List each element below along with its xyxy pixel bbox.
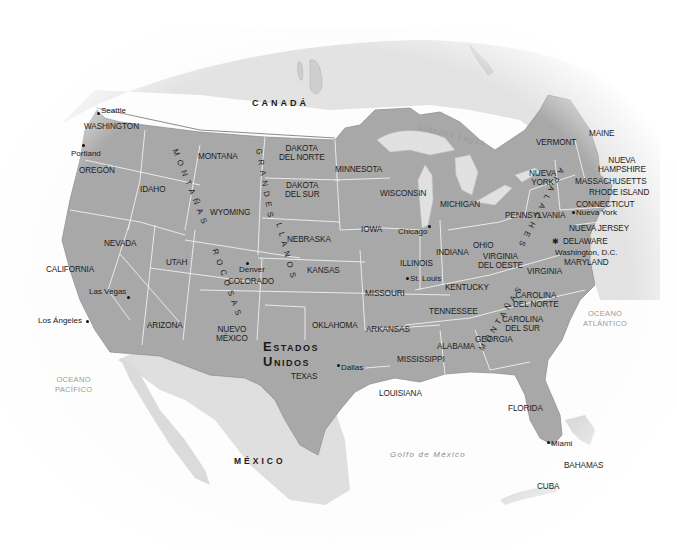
state-label-georgia: GEORGIA [475, 336, 513, 345]
nueva-york-line-2: YORK [529, 179, 556, 188]
state-label-florida: FLORIDA [508, 405, 543, 414]
state-label-nebraska: NEBRASKA [287, 236, 331, 245]
state-label-nueva-york: NUEVA YORK [529, 170, 556, 187]
state-label-oklahoma: OKLAHOMA [312, 322, 358, 331]
pacific-line-1: OCEANO [55, 375, 92, 385]
state-label-indiana: INDIANA [436, 249, 469, 258]
state-label-arizona: ARIZONA [147, 322, 183, 331]
state-label-tennessee: TENNESSEE [429, 308, 478, 317]
state-label-dakota-del-norte: DAKOTA DEL NORTE [279, 145, 325, 162]
pacific-line-2: PACÍFICO [55, 385, 92, 395]
city-marker-nueva-york [572, 211, 575, 214]
state-label-nueva-jersey: NUEVA JERSEY [569, 225, 629, 234]
state-label-virginia-del-oeste: VIRGINIA DEL OESTE [478, 253, 523, 270]
country-label-cuba: CUBA [537, 483, 559, 492]
state-label-kentucky: KENTUCKY [445, 284, 489, 293]
city-label-miami: Miami [551, 440, 572, 448]
city-marker-portland [82, 144, 85, 147]
state-label-california: CALIFORNIA [46, 266, 94, 275]
state-label-colorado: COLORADO [228, 278, 274, 287]
state-label-nevada: NEVADA [104, 240, 136, 249]
state-label-minnesota: MINNESOTA [335, 166, 382, 175]
state-label-maine: MAINE [589, 130, 614, 139]
virginia-oeste-line-2: DEL OESTE [478, 262, 523, 271]
city-label-los-angeles: Los Ángeles [38, 317, 82, 325]
city-label-las-vegas: Las Vegas [89, 288, 126, 296]
ocean-label-pacific: OCEANO PACÍFICO [55, 375, 92, 395]
state-label-carolina-del-sur: CAROLINA DEL SUR [502, 316, 543, 333]
state-label-kansas: KANSAS [307, 267, 340, 276]
state-label-carolina-del-norte: CAROLINA DEL NORTE [513, 292, 559, 309]
state-label-maryland: MARYLAND [564, 259, 609, 268]
city-marker-seattle [97, 112, 100, 115]
usa-line-2: Unidos [263, 355, 319, 370]
state-label-alabama: ALABAMA [437, 343, 475, 352]
ocean-label-atlantic: OCEANO ATLÁNTICO [583, 309, 627, 329]
nuevo-mexico-line-2: MÉXICO [216, 335, 248, 344]
dakota-norte-line-2: DEL NORTE [279, 154, 325, 163]
city-label-st-louis: St. Louis [410, 275, 441, 283]
dakota-sur-line-2: DEL SUR [285, 191, 319, 200]
capital-star-icon: ✱ [552, 238, 559, 246]
atlantic-line-1: OCEANO [583, 309, 627, 319]
state-label-missouri: MISSOURI [365, 290, 405, 299]
state-label-arkansas: ARKANSAS [366, 326, 410, 335]
state-label-texas: TEXAS [291, 373, 317, 382]
carolina-sur-line-2: DEL SUR [502, 325, 543, 334]
carolina-norte-line-2: DEL NORTE [513, 301, 559, 310]
gulf-label: Golfo de México [390, 450, 466, 459]
city-label-seattle: Seattle [101, 107, 126, 115]
state-label-utah: UTAH [166, 259, 187, 268]
state-label-washington: WASHINGTON [84, 123, 139, 132]
state-label-idaho: IDAHO [140, 186, 165, 195]
city-marker-st-louis [406, 277, 409, 280]
state-label-massachusetts: MASSACHUSETTS [575, 178, 647, 187]
usa-line-1: Estados [263, 340, 319, 355]
country-label-bahamas: BAHAMAS [564, 462, 603, 471]
country-label-usa: Estados Unidos [263, 340, 319, 370]
state-label-ohio: OHIO [473, 242, 494, 251]
state-label-delaware: DELAWARE [563, 238, 608, 247]
city-marker-miami [547, 441, 550, 444]
state-label-iowa: IOWA [361, 226, 382, 235]
city-label-portland: Portland [71, 150, 101, 158]
city-label-chicago: Chicago [398, 228, 427, 236]
state-label-louisiana: LOUISIANA [379, 390, 422, 399]
city-marker-dallas [337, 364, 340, 367]
city-marker-los-angeles [86, 320, 89, 323]
state-label-mississippi: MISSISSIPPI [397, 356, 445, 365]
state-label-nueva-hampshire: NUEVA HAMPSHIRE [598, 157, 646, 174]
country-label-mexico: MÉXICO [234, 456, 286, 466]
city-label-washington-dc: Washington, D.C. [555, 249, 617, 257]
state-label-dakota-del-sur: DAKOTA DEL SUR [285, 182, 319, 199]
state-label-pennsylvania: PENNSYLVANIA [505, 212, 565, 221]
city-label-denver: Denver [239, 266, 265, 274]
state-label-nuevo-mexico: NUEVO MÉXICO [216, 326, 248, 343]
nueva-hampshire-line-2: HAMPSHIRE [598, 166, 646, 175]
city-marker-las-vegas [127, 296, 130, 299]
state-label-virginia: VIRGINIA [527, 268, 562, 277]
state-label-oregon: OREGÓN [79, 167, 115, 176]
state-label-illinois: ILLINOIS [400, 260, 433, 269]
city-label-nueva-york: Nueva York [576, 209, 617, 217]
atlantic-line-2: ATLÁNTICO [583, 319, 627, 329]
state-label-wyoming: WYOMING [210, 209, 250, 218]
country-label-canada: CANADÁ [252, 98, 309, 108]
city-marker-chicago [428, 225, 431, 228]
city-label-dallas: Dallas [341, 364, 363, 372]
state-label-rhode-island: RHODE ISLAND [589, 189, 649, 198]
state-label-vermont: VERMONT [536, 139, 576, 148]
state-label-wisconsin: WISCONSIN [380, 190, 426, 199]
state-label-montana: MONTANA [198, 153, 238, 162]
state-label-michigan: MICHIGAN [440, 201, 480, 210]
